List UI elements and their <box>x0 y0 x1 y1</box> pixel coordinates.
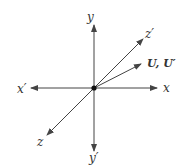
x-label: x <box>163 81 170 95</box>
z-axis-arrow <box>47 88 94 135</box>
vector-u-label: U, U′ <box>147 57 176 70</box>
origin-dot <box>91 85 96 90</box>
z-prime-label: z′ <box>144 27 154 41</box>
z-label: z <box>36 135 44 149</box>
x-prime-label: x′ <box>17 82 27 96</box>
y-prime-label: y′ <box>88 151 99 165</box>
y-label: y <box>86 10 94 24</box>
coordinate-axes-diagram: xx′yy′zz′U, U′ <box>0 0 189 165</box>
vector-u-axis-arrow <box>94 64 141 88</box>
z-prime-axis-arrow <box>94 39 143 88</box>
